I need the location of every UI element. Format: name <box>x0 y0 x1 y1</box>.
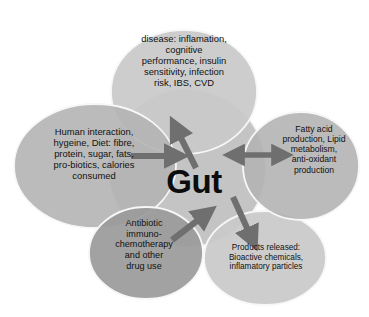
gut-microbiome-diagram: disease: inflamation, cognitive performa… <box>0 0 369 317</box>
ellipse-products-released <box>204 211 326 305</box>
ellipse-drug-use <box>89 207 203 299</box>
ellipse-metabolic-functions <box>243 112 359 220</box>
diagram-canvas <box>0 0 369 317</box>
